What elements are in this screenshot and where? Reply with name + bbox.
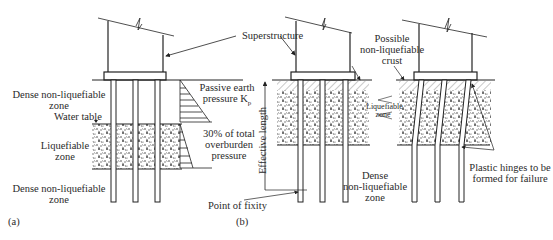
caption-b: (b): [236, 216, 248, 227]
overburden-label-1: 30% of total: [196, 128, 262, 139]
dense-top-label-1: Dense non-liquefiable: [4, 89, 114, 100]
overburden-label-2: overburden: [196, 139, 262, 150]
passive-label-2: pressure Kp: [192, 93, 262, 107]
crust-label-2: non-liquefiable: [352, 44, 432, 55]
water-table-label: Water table: [54, 111, 102, 122]
dense-bottom-label-2: zone: [4, 194, 114, 205]
liquefiable-label-1: Liquefiable: [30, 140, 100, 151]
effective-length-label: Effective length: [257, 101, 268, 181]
dense-top-label-2: zone: [4, 100, 114, 111]
hinge-arrow-bottom: [462, 147, 494, 150]
crust-label-3: crust: [352, 55, 432, 66]
passive-label-1: Passive earth: [192, 82, 262, 93]
panel-a: [92, 18, 243, 202]
superstructure-label: Superstructure: [242, 30, 303, 41]
hinges-label-1: Plastic hinges to be: [460, 162, 553, 173]
caption-a: (a): [8, 216, 20, 227]
superstructure-arrow-a: [166, 36, 236, 56]
superstructure-a: [98, 18, 174, 80]
crust-label-1: Possible: [352, 33, 432, 44]
liquefiable-label-2: zone: [30, 151, 100, 162]
hinges-label-2: formed for failure: [460, 173, 553, 184]
dense-b-label-3: zone: [340, 192, 410, 203]
fixity-arrow: [244, 192, 298, 200]
dense-b-label-2: non-liquefiable: [340, 181, 410, 192]
overburden-label-3: pressure: [196, 150, 262, 161]
dense-b-label-1: Dense: [340, 170, 410, 181]
fixity-label: Point of fixity: [208, 200, 267, 211]
dense-bottom-label-1: Dense non-liquefiable: [4, 183, 114, 194]
liquefiable-b-label-2: zone: [366, 111, 400, 119]
